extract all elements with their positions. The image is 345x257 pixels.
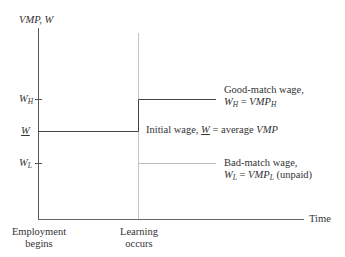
tick-label-w-avg-base: W [21,125,30,136]
tick-label-wl-base: W [19,157,28,168]
tick-label-wh-sub: H [28,97,33,106]
event-learning-occurs: Learning occurs [115,226,163,250]
iw-prefix: Initial wage, [146,124,201,135]
good-match-title: Good-match wage, [224,84,304,96]
iw-w: W [201,124,210,135]
bm-rhs: VMP [248,169,270,180]
bm-lhs: W [224,169,233,180]
gm-rhs-sub: H [271,100,276,109]
x-axis-label: Time [309,213,331,225]
gm-lhs: W [224,96,233,107]
bm-eq: = [237,169,248,180]
initial-wage-annotation: Initial wage, W = average VMP [146,124,278,136]
iw-vmp: VMP [256,124,278,135]
gm-eq: = [238,96,249,107]
event-learning-line1: Learning [115,226,163,238]
bm-note: (unpaid) [274,169,312,180]
tick-label-wl: WL [19,157,32,169]
bad-match-equation: WL = VMPL (unpaid) [224,169,312,181]
gm-rhs: VMP [249,96,271,107]
tick-label-wh-base: W [19,93,28,104]
good-match-equation: WH = VMPH [224,96,304,108]
bad-match-annotation: Bad-match wage, WL = VMPL (unpaid) [224,157,312,181]
event-learning-line2: occurs [115,238,163,250]
bad-match-title: Bad-match wage, [224,157,312,169]
tick-label-wl-sub: L [28,161,32,170]
good-match-annotation: Good-match wage, WH = VMPH [224,84,304,108]
event-employment-line2: begins [10,238,68,250]
iw-suffix: = average [210,124,256,135]
tick-label-wh: WH [19,93,33,105]
tick-label-w-avg: W [21,125,30,137]
y-axis-label: VMP, W [19,14,53,26]
event-employment-line1: Employment [10,226,68,238]
event-employment-begins: Employment begins [10,226,68,250]
